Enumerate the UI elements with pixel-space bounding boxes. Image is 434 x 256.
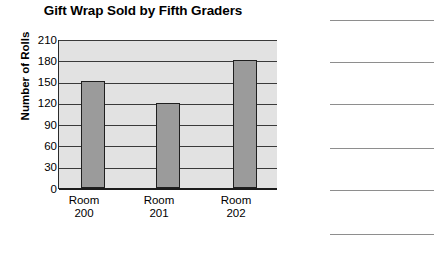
y-tick-label-30: 30	[3, 162, 57, 174]
x-tick-label-room-201-number: 201	[127, 207, 191, 220]
y-tick-label-0: 0	[3, 184, 57, 196]
answer-line-1	[330, 20, 434, 21]
answer-lines-panel	[290, 0, 434, 256]
x-tick-label-room-202-word: Room	[204, 194, 268, 207]
answer-line-5	[330, 190, 434, 191]
bar-room-201	[156, 103, 180, 188]
x-tick-label-room-201-word: Room	[127, 194, 191, 207]
x-tick-label-room-200: Room 200	[52, 194, 116, 220]
x-tick-label-room-200-word: Room	[52, 194, 116, 207]
plot-area	[58, 40, 277, 189]
gridline-210	[59, 40, 277, 41]
answer-line-6	[330, 234, 434, 235]
answer-line-4	[330, 148, 434, 149]
x-tick-label-room-202: Room 202	[204, 194, 268, 220]
bar-room-202	[233, 60, 257, 188]
answer-line-3	[330, 104, 434, 105]
x-tick-label-room-202-number: 202	[204, 207, 268, 220]
y-axis-tick-labels: 210 180 150 120 90 60 30 0	[0, 0, 57, 256]
bar-chart-panel: Gift Wrap Sold by Fifth Graders Number o…	[0, 0, 290, 256]
x-tick-label-room-200-number: 200	[52, 207, 116, 220]
y-tick-label-60: 60	[3, 141, 57, 153]
x-tick-label-room-201: Room 201	[127, 194, 191, 220]
axis-baseline	[59, 188, 277, 190]
y-tick-label-150: 150	[3, 77, 57, 89]
y-tick-label-180: 180	[3, 56, 57, 68]
y-tick-label-90: 90	[3, 120, 57, 132]
y-tick-label-210: 210	[3, 35, 57, 47]
bar-room-200	[81, 81, 105, 187]
y-tick-label-120: 120	[3, 98, 57, 110]
answer-line-2	[330, 62, 434, 63]
